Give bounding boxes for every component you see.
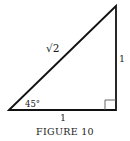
figure-caption: FIGURE 10: [36, 126, 94, 137]
right-angle-marker: [105, 100, 116, 110]
vertical-side-label: 1: [119, 53, 125, 64]
horizontal-side-label: 1: [60, 112, 66, 123]
figure-diagram: √2 1 1 45° FIGURE 10: [0, 0, 130, 141]
right-triangle: [9, 6, 116, 110]
hypotenuse-label: √2: [46, 42, 59, 54]
angle-label: 45°: [25, 99, 40, 109]
